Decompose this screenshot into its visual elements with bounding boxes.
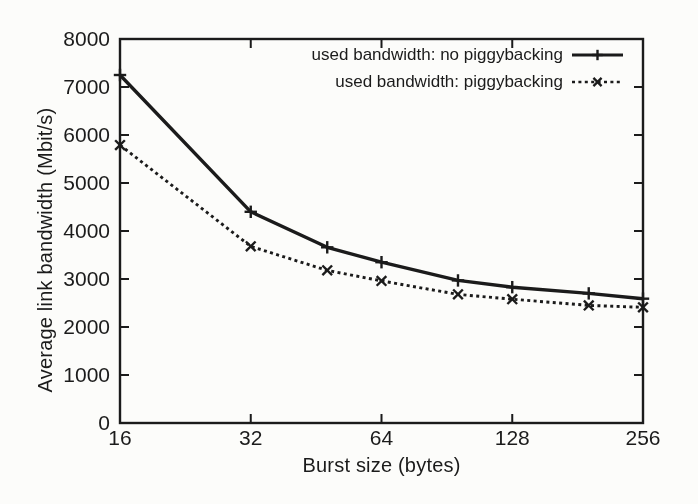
legend-label-no-piggybacking: used bandwidth: no piggybacking xyxy=(312,45,563,65)
y-tick-label: 3000 xyxy=(63,267,110,290)
legend-label-piggybacking: used bandwidth: piggybacking xyxy=(335,72,563,92)
scanned-line-chart: 1632641282560100020003000400050006000700… xyxy=(0,0,698,504)
y-tick-label: 2000 xyxy=(63,315,110,338)
y-tick-label: 6000 xyxy=(63,123,110,146)
x-tick-label: 64 xyxy=(370,426,394,449)
legend-item-piggybacking: used bandwidth: piggybacking xyxy=(312,68,623,95)
series-used-bandwidth-piggybacking-markers xyxy=(115,140,648,312)
x-axis-label: Burst size (bytes) xyxy=(120,454,643,477)
y-tick-label: 0 xyxy=(98,411,110,434)
y-tick-label: 1000 xyxy=(63,363,110,386)
series-used-bandwidth-piggybacking-line xyxy=(120,145,643,307)
y-tick-label: 5000 xyxy=(63,171,110,194)
x-tick-label: 256 xyxy=(625,426,660,449)
plot-border xyxy=(120,39,643,423)
x-tick-label: 16 xyxy=(108,426,131,449)
x-tick-label: 32 xyxy=(239,426,262,449)
legend: used bandwidth: no piggybacking used ban… xyxy=(312,41,623,95)
legend-sample-solid-plus-icon xyxy=(572,47,623,63)
y-tick-label: 4000 xyxy=(63,219,110,242)
y-tick-label: 7000 xyxy=(63,75,110,98)
y-axis-label: Average link bandwidth (Mbit/s) xyxy=(34,108,57,393)
x-tick-label: 128 xyxy=(495,426,530,449)
legend-item-no-piggybacking: used bandwidth: no piggybacking xyxy=(312,41,623,68)
series-used-bandwidth-no-piggybacking-markers xyxy=(114,69,649,305)
legend-sample-dashed-cross-icon xyxy=(572,74,623,90)
y-tick-label: 8000 xyxy=(63,27,110,50)
